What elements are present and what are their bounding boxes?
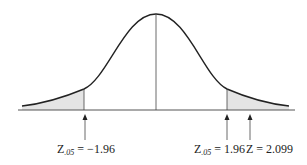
left-z-value: = −1.96 — [74, 142, 115, 156]
left-z-subscript: .05 — [64, 148, 74, 157]
right-arrow-icon — [225, 114, 230, 140]
left-critical-label: Z.05 = −1.96 — [57, 142, 115, 160]
test-statistic-text: Z = 2.099 — [246, 142, 293, 156]
right-z-subscript: .05 — [201, 148, 211, 157]
normal-curve — [22, 14, 289, 106]
left-arrow-icon — [83, 114, 88, 140]
right-critical-label: Z.05 = 1.96 — [194, 142, 245, 160]
right-z-value: = 1.96 — [211, 142, 245, 156]
normal-distribution-diagram — [0, 0, 307, 165]
stat-arrow-icon — [248, 114, 253, 140]
test-statistic-label: Z = 2.099 — [246, 142, 293, 156]
